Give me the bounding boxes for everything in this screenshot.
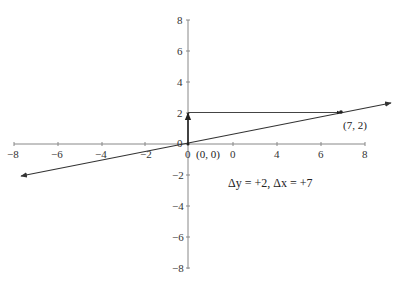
y-tick-label: 6 <box>177 46 183 57</box>
point-7-2 <box>339 110 343 114</box>
x-tick-label: 4 <box>274 149 280 160</box>
x-tick-label: −6 <box>51 149 63 160</box>
y-tick-label: −8 <box>172 263 184 274</box>
y-tick-label: −2 <box>172 170 184 181</box>
slope-line <box>21 103 391 176</box>
x-tick-label: −8 <box>7 149 19 160</box>
x-tick-label: 0 <box>185 149 191 160</box>
y-tick-label: −4 <box>172 201 184 212</box>
point-label: (7, 2) <box>343 119 367 131</box>
coordinate-plane <box>0 0 397 284</box>
y-tick-label: 4 <box>177 77 183 88</box>
x-tick-label: −2 <box>140 149 152 160</box>
x-tick-label: −4 <box>95 149 107 160</box>
x-tick-label: 8 <box>362 149 368 160</box>
x-tick-label: 0 <box>230 149 236 160</box>
x-tick-label: 6 <box>318 149 324 160</box>
y-tick-label: 8 <box>177 15 183 26</box>
y-tick-label: −6 <box>172 232 184 243</box>
y-tick-label: 2 <box>177 108 183 119</box>
origin-label: (0, 0) <box>196 148 220 160</box>
point-origin <box>187 143 190 146</box>
y-tick-label: 0 <box>177 138 183 149</box>
delta-label: Δy = +2, Δx = +7 <box>228 176 313 191</box>
